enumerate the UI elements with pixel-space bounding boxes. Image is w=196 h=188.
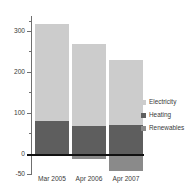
legend-item-heating: Heating [141,109,196,122]
legend-swatch-renewables-icon [141,126,146,131]
y-minor-tick-150 [29,92,32,93]
legend-item-electricity: Electricity [141,96,196,109]
bar-segment-heating [35,121,69,154]
y-tick-neg50 [27,174,32,175]
y-tick-label-300: 300 [14,28,25,35]
x-axis-label-apr-2006: Apr 2006 [70,176,108,183]
legend-label-heating: Heating [149,112,171,118]
bar-group-apr-2007 [109,60,143,154]
y-tick-label-100: 100 [14,110,25,117]
bar-group-apr-2006 [72,44,106,154]
y-tick-label-0: 0 [21,151,25,158]
bar-group-apr-2007-negative [109,154,143,171]
y-minor-tick-325 [29,21,32,22]
bar-segment-electricity [109,60,143,125]
x-axis-label-apr-2007: Apr 2007 [107,176,145,183]
zero-baseline [27,154,144,156]
legend-swatch-electricity-icon [141,100,146,105]
bar-group-mar-2005 [35,24,69,154]
y-tick-100 [27,113,32,114]
y-tick-label-200: 200 [14,69,25,76]
y-tick-300 [27,31,32,32]
bar-segment-renewables [109,154,143,171]
y-minor-tick-50 [29,133,32,134]
chart-legend: Electricity Heating Renewables [141,96,196,135]
bar-segment-heating [72,126,106,154]
bar-segment-electricity [72,44,106,126]
bar-segment-heating [109,125,143,154]
stacked-bar-chart: 300 200 100 0 -50 Mar 2005 [0,0,196,188]
y-tick-label-neg50: -50 [15,171,25,178]
legend-swatch-heating-icon [141,113,146,118]
legend-item-renewables: Renewables [141,122,196,135]
legend-label-renewables: Renewables [149,125,184,131]
x-axis-label-mar-2005: Mar 2005 [33,176,71,183]
y-axis-line [31,16,32,174]
y-minor-tick-250 [29,51,32,52]
y-tick-200 [27,72,32,73]
bar-segment-electricity [35,24,69,121]
legend-label-electricity: Electricity [149,99,176,105]
